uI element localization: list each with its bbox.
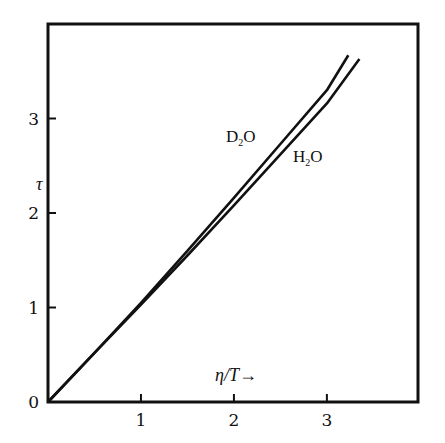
series-label-h2o-tail: O <box>310 147 322 166</box>
series-label-d2o-main: D <box>226 127 238 146</box>
series-label-d2o: D2O <box>226 127 256 148</box>
x-tick-label: 2 <box>229 410 240 430</box>
series-line-d2o <box>48 55 348 402</box>
x-axis-label: η/T→ <box>215 365 257 385</box>
y-tick-label: 0 <box>28 392 39 412</box>
labels: τ η/T→ D2O H2O <box>36 127 323 385</box>
x-tick-label: 3 <box>321 410 332 430</box>
y-tick-label: 2 <box>28 203 39 223</box>
series-label-h2o: H2O <box>293 147 323 168</box>
series-label-d2o-tail: O <box>243 127 255 146</box>
series-label-h2o-main: H <box>293 147 305 166</box>
y-tick-label: 1 <box>28 298 39 318</box>
chart-figure: 1230123 τ η/T→ D2O H2O <box>0 0 445 443</box>
y-tick-label: 3 <box>28 109 39 129</box>
x-tick-label: 1 <box>136 410 147 430</box>
data-series <box>48 55 359 402</box>
axis-ticks: 1230123 <box>28 109 332 431</box>
y-axis-label: τ <box>36 174 43 194</box>
